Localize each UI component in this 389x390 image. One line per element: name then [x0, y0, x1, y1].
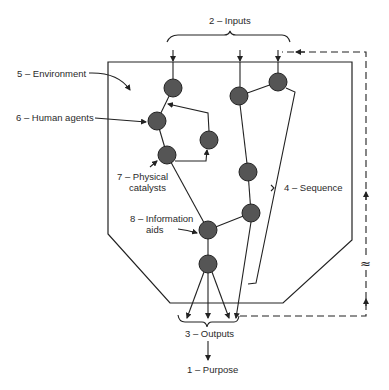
node-7: [239, 163, 257, 181]
node-10: [242, 204, 260, 222]
physical-catalysts-pointer: [150, 161, 157, 167]
node-human-agent: [148, 112, 166, 130]
node-information-aid: [199, 221, 217, 239]
human-agents-label: 6 – Human agents: [16, 112, 94, 123]
node-4: [200, 131, 218, 149]
break-symbol: ≈: [360, 256, 371, 271]
system-diagram: 2 – Inputs 3 – Outputs 1 – Purpose ≈ 4 –…: [0, 0, 389, 390]
node-physical-catalyst: [158, 146, 176, 164]
physical-catalysts-label-2: catalysts: [129, 182, 166, 193]
edge-loop-up: [175, 150, 207, 161]
outputs-label: 3 – Outputs: [185, 328, 234, 339]
sequence-label: 4 – Sequence: [284, 182, 343, 193]
information-aids-label-1: 8 – Information: [130, 213, 193, 224]
sequence-brace: [271, 185, 274, 191]
purpose-label: 1 – Purpose: [187, 364, 238, 375]
edge-loop-back: [168, 104, 209, 131]
node-1: [164, 79, 182, 97]
node-5: [230, 87, 248, 105]
node-6: [269, 73, 287, 91]
information-aids-label-2: aids: [146, 224, 164, 235]
information-aids-pointer: [178, 229, 197, 233]
inputs-label: 2 – Inputs: [209, 15, 251, 26]
output-arrow-1: [187, 272, 204, 318]
environment-label: 5 – Environment: [17, 68, 87, 79]
edge: [239, 96, 248, 172]
node-9: [199, 255, 217, 273]
physical-catalysts-label-1: 7 – Physical: [117, 171, 168, 182]
human-agents-pointer: [95, 118, 146, 122]
inputs-brace: [167, 31, 290, 42]
output-arrow-3: [212, 272, 229, 318]
environment-pointer: [89, 73, 130, 90]
